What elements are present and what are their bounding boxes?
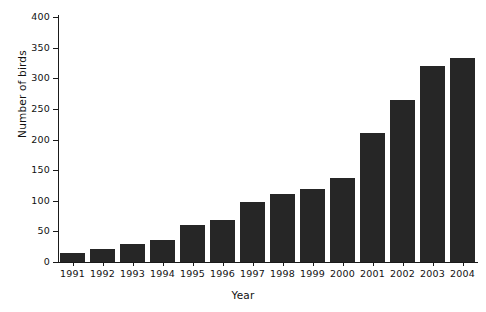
x-axis-tick-label: 1991 xyxy=(56,269,90,279)
bar xyxy=(180,225,205,262)
bar xyxy=(240,202,265,262)
x-axis-tick-label: 2004 xyxy=(446,269,480,279)
y-axis-tick-label: 400 xyxy=(16,12,50,22)
x-axis-tick-label: 1993 xyxy=(116,269,150,279)
y-axis-tick-label-wrap: 400 xyxy=(10,12,50,22)
bar xyxy=(450,58,475,262)
x-axis-tick xyxy=(283,262,284,266)
y-axis-tick-label-wrap: 150 xyxy=(10,165,50,175)
bar xyxy=(360,133,385,262)
x-axis-tick xyxy=(403,262,404,266)
x-axis-tick-label: 2001 xyxy=(356,269,390,279)
x-axis-tick-label: 1999 xyxy=(296,269,330,279)
bar xyxy=(300,189,325,262)
bar xyxy=(60,253,85,262)
bar-chart-figure: 050100150200250300350400 199119921993199… xyxy=(0,0,486,312)
y-axis-tick xyxy=(53,262,58,263)
y-axis-tick-label: 50 xyxy=(16,226,50,236)
y-axis-title: Number of birds xyxy=(16,24,28,164)
x-axis-tick xyxy=(253,262,254,266)
y-axis-tick-label: 0 xyxy=(16,257,50,267)
x-axis-tick xyxy=(163,262,164,266)
x-axis-tick-label: 1996 xyxy=(206,269,240,279)
x-axis-tick xyxy=(193,262,194,266)
x-axis-tick xyxy=(463,262,464,266)
x-axis-title: Year xyxy=(0,289,486,301)
bar xyxy=(420,66,445,262)
x-axis-tick xyxy=(373,262,374,266)
bar xyxy=(90,249,115,263)
bar xyxy=(330,178,355,262)
x-axis-tick-label: 1997 xyxy=(236,269,270,279)
plot-area xyxy=(58,17,478,262)
x-axis-tick-label: 2002 xyxy=(386,269,420,279)
y-axis-tick-label-wrap: 0 xyxy=(10,257,50,267)
bar xyxy=(120,244,145,262)
x-axis-tick xyxy=(223,262,224,266)
x-axis-tick xyxy=(73,262,74,266)
y-axis-tick-label-wrap: 50 xyxy=(10,226,50,236)
x-axis-tick-label: 2000 xyxy=(326,269,360,279)
x-axis-tick xyxy=(133,262,134,266)
y-axis-tick-label: 100 xyxy=(16,196,50,206)
x-axis-tick xyxy=(313,262,314,266)
x-axis-tick-label: 1992 xyxy=(86,269,120,279)
x-axis-tick xyxy=(343,262,344,266)
bar xyxy=(270,194,295,262)
x-axis-tick xyxy=(433,262,434,266)
y-axis-tick-label: 150 xyxy=(16,165,50,175)
x-axis-tick-label: 1994 xyxy=(146,269,180,279)
bar xyxy=(390,100,415,262)
y-axis-tick-label-wrap: 100 xyxy=(10,196,50,206)
x-axis-tick-label: 1998 xyxy=(266,269,300,279)
x-axis-line xyxy=(58,262,478,263)
x-axis-tick xyxy=(103,262,104,266)
bar xyxy=(210,220,235,262)
x-axis-tick-label: 2003 xyxy=(416,269,450,279)
x-axis-tick-label: 1995 xyxy=(176,269,210,279)
bar xyxy=(150,240,175,262)
